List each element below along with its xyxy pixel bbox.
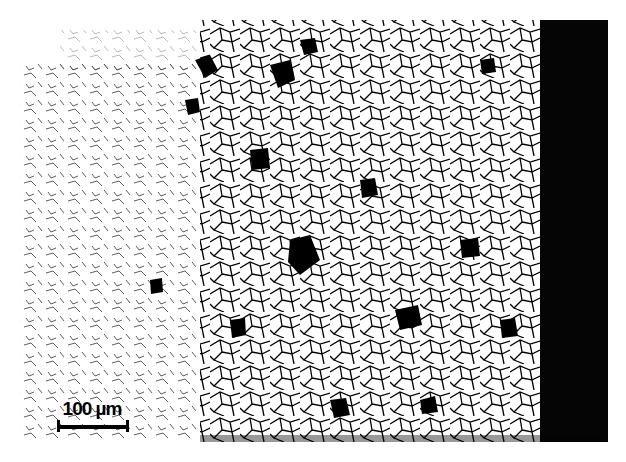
scale-bar-tick-right [126, 420, 129, 432]
micrograph-image [0, 0, 626, 462]
coarse-grain-region [200, 20, 540, 442]
scale-bar-line [58, 425, 128, 429]
scale-bar-label: 100 µm [52, 398, 132, 420]
scale-bar: 100 µm [52, 398, 132, 432]
dark-band [540, 20, 608, 442]
fine-grain-region [20, 30, 200, 442]
